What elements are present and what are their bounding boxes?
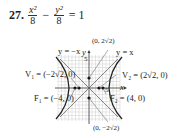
top-point-label: (0, 2√2) — [92, 37, 115, 45]
v1-label: V₁ = (−2√2, 0) — [25, 69, 75, 79]
x-axis-label: x — [120, 82, 124, 92]
x-tick-label: 5 — [105, 86, 109, 94]
f1-label: F₁ = (−4, 0) — [34, 93, 74, 103]
x-axis-arrow-icon — [124, 87, 127, 90]
axes — [55, 52, 124, 124]
y-axis-arrow-icon — [88, 50, 91, 53]
asymptote-pos-label: y = x — [116, 47, 134, 57]
v2-label: V₂ = (2√2, 0) — [122, 70, 167, 80]
y-tick-label: 5 — [84, 55, 88, 63]
f2-label: F₂ = (4, 0) — [110, 93, 145, 103]
bottom-point-label: (0, −2√2) — [93, 124, 119, 132]
asymptote-neg-label: y = −x — [58, 46, 80, 56]
